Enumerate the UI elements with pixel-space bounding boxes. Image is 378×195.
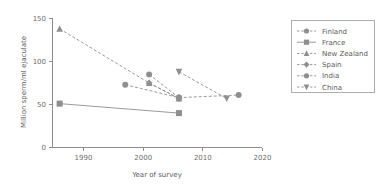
- legend-label: China: [322, 84, 342, 92]
- legend-label: Finland: [322, 28, 347, 36]
- x-tick-label: 2020: [254, 154, 272, 162]
- series-line: [179, 72, 227, 99]
- legend-marker: [304, 28, 309, 33]
- x-axis-ticks: 1990 2000 2010 2020: [75, 148, 272, 163]
- legend: FinlandFranceNew ZealandSpainIndiaChina: [292, 21, 375, 93]
- series-line: [60, 29, 179, 99]
- data-point: [223, 95, 230, 102]
- series-france: [57, 101, 182, 116]
- x-tick-label: 2010: [194, 154, 212, 162]
- y-tick-label: 150: [33, 15, 46, 23]
- y-axis-title: Million sperm/ml ejaculate: [20, 36, 28, 128]
- legend-label: New Zealand: [322, 50, 368, 58]
- line-chart: 150 100 50 0 1990 2000 2010 2020 Year of…: [0, 0, 378, 195]
- series-line: [125, 85, 238, 98]
- y-tick-label: 0: [42, 144, 46, 152]
- legend-marker: [304, 40, 309, 45]
- series-line: [149, 74, 179, 97]
- y-tick-label: 100: [33, 58, 46, 66]
- data-point: [176, 95, 182, 101]
- series-line: [60, 104, 179, 113]
- series-layer: [56, 25, 241, 116]
- axis-group: [53, 18, 263, 148]
- x-tick-label: 1990: [75, 154, 93, 162]
- data-point: [236, 92, 242, 98]
- x-axis-title: Year of survey: [131, 171, 182, 179]
- data-point: [176, 110, 182, 116]
- data-point: [56, 25, 63, 32]
- legend-label: India: [322, 72, 339, 80]
- y-axis-ticks: 150 100 50 0: [33, 15, 53, 152]
- y-tick-label: 50: [37, 101, 46, 109]
- x-tick-label: 2000: [134, 154, 152, 162]
- series-india: [122, 82, 241, 101]
- data-point: [57, 101, 63, 107]
- legend-label: Spain: [322, 61, 342, 69]
- legend-marker: [304, 73, 309, 78]
- data-point: [176, 69, 183, 76]
- data-point: [146, 71, 152, 77]
- data-point: [122, 82, 128, 88]
- chart-figure: 150 100 50 0 1990 2000 2010 2020 Year of…: [0, 0, 378, 195]
- legend-label: France: [322, 39, 345, 47]
